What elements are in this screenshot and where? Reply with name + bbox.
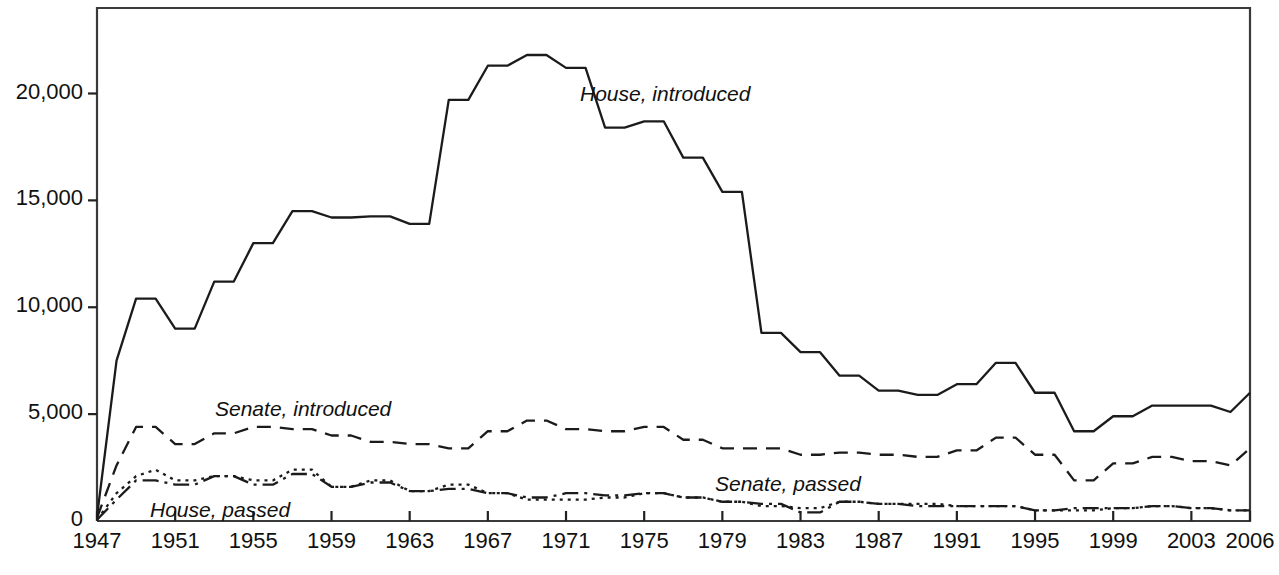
y-axis-tick-label: 15,000: [0, 185, 83, 211]
x-axis-tick-label: 1991: [917, 528, 997, 554]
x-axis-tick-label: 1971: [526, 528, 606, 554]
series-line-house-introduced: [97, 55, 1250, 517]
x-axis-tick-label: 1999: [1073, 528, 1153, 554]
x-axis-tick-label: 1975: [604, 528, 684, 554]
x-axis-tick-label: 1963: [370, 528, 450, 554]
x-axis-tick-label: 1967: [448, 528, 528, 554]
x-axis-tick-label: 1959: [292, 528, 372, 554]
series-label-senate-introduced: Senate, introduced: [215, 397, 391, 421]
y-axis-tick-label: 20,000: [0, 79, 83, 105]
series-label-senate-passed: Senate, passed: [715, 472, 861, 496]
x-axis-tick-label: 1987: [839, 528, 919, 554]
y-axis-tick-label: 10,000: [0, 292, 83, 318]
x-axis-tick-label: 1983: [761, 528, 841, 554]
x-axis-tick-label: 1947: [57, 528, 137, 554]
x-axis-tick-label: 1951: [135, 528, 215, 554]
x-axis-tick-label: 2006: [1210, 528, 1279, 554]
x-axis-tick-label: 1995: [995, 528, 1075, 554]
data-series-group: [97, 55, 1250, 520]
series-label-house-introduced: House, introduced: [580, 82, 750, 106]
y-axis-tick-label: 5,000: [0, 399, 83, 425]
series-label-house-passed: House, passed: [150, 498, 290, 522]
axis-ticks: [88, 94, 1250, 522]
x-axis-tick-label: 1979: [682, 528, 762, 554]
x-axis-tick-label: 1955: [213, 528, 293, 554]
